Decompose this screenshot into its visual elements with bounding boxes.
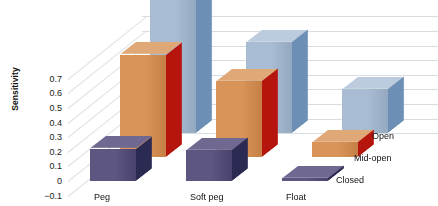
y-axis-tick-label: 0 [57, 176, 62, 186]
depth-axis-label-open: Open [372, 131, 394, 141]
bar-closed-float [282, 178, 328, 181]
bar-side-face [166, 43, 182, 157]
x-axis-label-peg: Peg [94, 192, 110, 202]
x-axis-label-soft-peg: Soft peg [190, 192, 224, 202]
y-axis-tick-label: 0.7 [49, 74, 62, 84]
x-axis-label-float: Float [286, 192, 306, 202]
y-axis-tick-label: 0.2 [49, 147, 62, 157]
y-axis-tick-label: 0.3 [49, 132, 62, 142]
bar-side-face [262, 69, 278, 157]
bar-side-face [292, 30, 308, 133]
bar-front-face [186, 150, 232, 181]
bar-front-face [312, 142, 358, 157]
y-axis-ticks: 0.70.60.50.40.30.20.10−0.1 [0, 0, 68, 206]
plot-area: PegSoft pegFloatOpenMid-openClosed [68, 0, 438, 206]
y-axis-tick-label: 0.5 [49, 103, 62, 113]
bar-front-face [342, 89, 388, 133]
bar-closed-soft-peg [186, 150, 232, 181]
y-axis-tick-label: 0.1 [49, 161, 62, 171]
chart-container: Sensitivity 0.70.60.50.40.30.20.10−0.1 P… [0, 0, 438, 206]
bar-closed-peg [90, 149, 136, 181]
y-axis-tick-label: 0.4 [49, 118, 62, 128]
bar-open-float [342, 89, 388, 133]
bar-front-face [282, 178, 328, 181]
bar-mid-open-float [312, 142, 358, 157]
bar-front-face [90, 149, 136, 181]
bar-side-face [196, 0, 212, 133]
y-axis-tick-label: 0.6 [49, 88, 62, 98]
depth-axis-label-closed: Closed [336, 175, 364, 185]
y-axis-tick-label: −0.1 [44, 191, 62, 201]
depth-axis-label-mid-open: Mid-open [354, 153, 392, 163]
